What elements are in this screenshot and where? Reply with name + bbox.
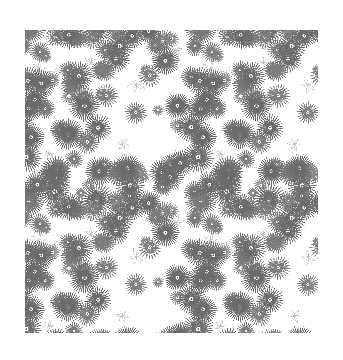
artboard	[0, 0, 343, 360]
floral-pattern-canvas	[25, 30, 318, 333]
